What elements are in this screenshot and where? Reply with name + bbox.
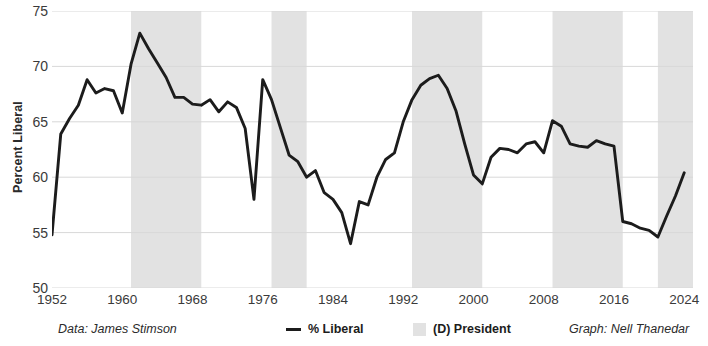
legend-item-democratic-president: (D) President [413,320,511,338]
x-tick-label: 2016 [599,292,629,307]
legend-label-democratic-president: (D) President [433,320,511,338]
band-swatch-icon [413,323,426,336]
data-credit: Data: James Stimson [58,320,177,338]
y-tick-label: 75 [4,3,48,19]
x-tick-label: 2024 [669,292,699,307]
y-tick-label: 60 [4,169,48,185]
graph-credit: Graph: Nell Thanedar [569,320,689,338]
line-swatch-icon [286,328,301,331]
x-tick-label: 1952 [37,292,67,307]
line-chart-svg [52,11,693,288]
y-axis-tick-labels: 505560657075 [0,0,48,300]
president-party-bands [131,11,693,288]
x-tick-label: 1984 [318,292,348,307]
x-tick-label: 2000 [458,292,488,307]
president-band [272,11,307,288]
chart-footer: Data: James Stimson % Liberal (D) Presid… [0,320,708,346]
x-tick-label: 1976 [248,292,278,307]
y-tick-label: 55 [4,225,48,241]
x-tick-label: 1992 [388,292,418,307]
legend-item-percent-liberal: % Liberal [286,320,364,338]
y-tick-label: 70 [4,58,48,74]
x-tick-label: 1968 [177,292,207,307]
chart-figure: Percent Liberal 505560657075 19521960196… [0,0,708,346]
president-band [412,11,482,288]
plot-area [52,11,693,288]
president-band [658,11,693,288]
x-tick-label: 1960 [107,292,137,307]
legend-label-percent-liberal: % Liberal [308,320,364,338]
president-band [131,11,201,288]
y-tick-label: 65 [4,114,48,130]
president-band [553,11,623,288]
x-tick-label: 2008 [529,292,559,307]
